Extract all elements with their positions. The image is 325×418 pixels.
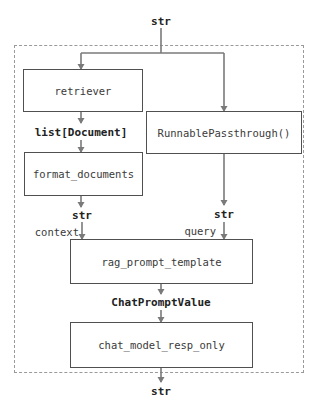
query-key-label: query bbox=[184, 225, 216, 237]
runnable-passthrough-node: RunnablePassthrough() bbox=[146, 111, 302, 154]
runnable-passthrough-node-label: RunnablePassthrough() bbox=[158, 127, 291, 139]
passthrough-output-type-label: str bbox=[214, 208, 234, 221]
chat-model-resp-only-node-label: chat_model_resp_only bbox=[98, 339, 224, 351]
chat-model-resp-only-node: chat_model_resp_only bbox=[70, 322, 253, 368]
rag-chain-diagram: str list[Document] str str context query… bbox=[0, 0, 325, 418]
retriever-output-type-label: list[Document] bbox=[35, 126, 128, 139]
context-key-label: context bbox=[35, 226, 79, 238]
format-documents-node: format_documents bbox=[24, 152, 143, 196]
retriever-node-label: retriever bbox=[55, 85, 112, 97]
output-type-label: str bbox=[151, 385, 171, 398]
prompt-output-type-label: ChatPromptValue bbox=[111, 296, 210, 309]
rag-prompt-template-node: rag_prompt_template bbox=[70, 239, 253, 284]
rag-prompt-template-node-label: rag_prompt_template bbox=[101, 256, 221, 268]
format-output-type-label: str bbox=[72, 209, 92, 222]
retriever-node: retriever bbox=[23, 69, 143, 112]
format-documents-node-label: format_documents bbox=[33, 168, 134, 180]
input-type-label: str bbox=[151, 15, 171, 28]
